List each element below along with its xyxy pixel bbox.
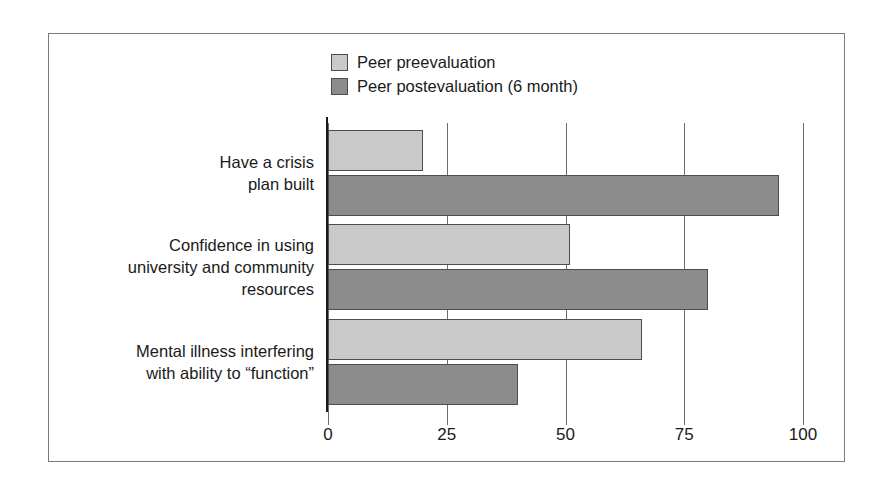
category-label-2: Mental illness interfering with ability … [136, 340, 314, 384]
gridline-100 [803, 123, 804, 425]
chart-legend: Peer preevaluation Peer postevaluation (… [331, 50, 751, 98]
legend-item-preevaluation: Peer preevaluation [331, 50, 751, 74]
bar-0-postevaluation [328, 175, 779, 216]
tick-label-50: 50 [556, 425, 575, 445]
plot-area: 0255075100 [328, 123, 803, 406]
bar-0-preevaluation [328, 130, 423, 171]
legend-swatch-postevaluation [331, 78, 348, 95]
legend-label-postevaluation: Peer postevaluation (6 month) [357, 78, 578, 95]
bar-2-postevaluation [328, 364, 518, 405]
bar-1-preevaluation [328, 224, 570, 265]
category-label-0: Have a crisis plan built [220, 151, 314, 195]
bar-2-preevaluation [328, 319, 642, 360]
legend-swatch-preevaluation [331, 54, 348, 71]
category-label-1: Confidence in using university and commu… [128, 234, 314, 300]
tick-label-75: 75 [675, 425, 694, 445]
bar-1-postevaluation [328, 269, 708, 310]
legend-label-preevaluation: Peer preevaluation [357, 54, 496, 71]
category-axis-labels: Have a crisis plan built Confidence in u… [49, 123, 314, 406]
tick-label-100: 100 [789, 425, 817, 445]
legend-item-postevaluation: Peer postevaluation (6 month) [331, 74, 751, 98]
chart-figure-frame: Peer preevaluation Peer postevaluation (… [48, 33, 845, 462]
tick-label-0: 0 [323, 425, 332, 445]
tick-label-25: 25 [437, 425, 456, 445]
